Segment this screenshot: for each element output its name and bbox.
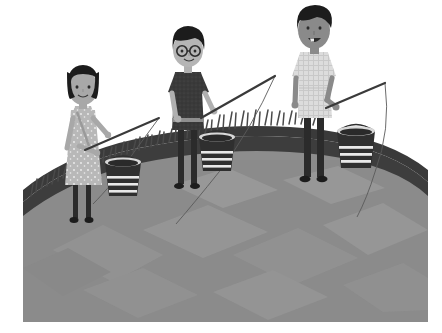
hand [105,132,111,138]
bucket-left [105,156,141,196]
arm [205,93,213,110]
fishing-rod-right [326,83,385,108]
leg [304,115,311,177]
eye [76,85,79,89]
shoe [70,217,79,223]
hand [175,116,182,123]
hand [94,150,100,156]
eye [307,26,310,30]
shoe [300,176,311,182]
bucket-right [337,125,375,169]
fishing-rod-middle [201,76,275,118]
shoe [85,217,94,223]
shoe [190,183,200,189]
leg [178,128,184,184]
fishing-illustration [23,0,428,322]
bucket-middle [199,131,235,171]
eye [88,85,91,89]
leg [317,115,324,177]
eye [181,49,184,52]
illustration-canvas [23,0,428,322]
leg [73,180,78,218]
rod-shaft [201,76,275,118]
arm [295,78,296,104]
rod-shaft [326,83,385,108]
shoe [174,183,184,189]
leg [191,128,197,184]
eye [194,49,197,52]
eye [319,26,322,30]
leg [86,180,91,218]
hand [292,102,299,109]
shoe [317,176,328,182]
illustration-scene [0,0,442,333]
